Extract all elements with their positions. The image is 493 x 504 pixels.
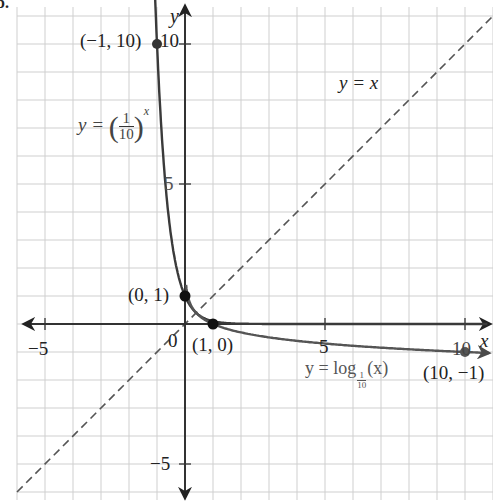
identity-equation: y = x <box>339 72 378 94</box>
grid-lines <box>17 7 493 500</box>
y-axis-label: y <box>170 5 179 28</box>
exp-eq-prefix: y = <box>78 114 109 135</box>
tick-label-origin: 0 <box>168 330 178 352</box>
point-label-neg1-10: (−1, 10) <box>80 30 141 52</box>
tick-label-x5: 5 <box>319 336 329 358</box>
tick-label-y10: 10 <box>160 30 179 52</box>
exponential-equation: y = (110)x <box>78 104 149 144</box>
exp-eq-fraction: 110 <box>119 111 134 142</box>
log-eq-arg: (x) <box>367 358 388 378</box>
point-label-0-1: (0, 1) <box>128 284 169 306</box>
point-label-10-neg1: (10, −1) <box>423 362 484 384</box>
log-eq-base: 110 <box>357 371 366 390</box>
tick-label-y-neg5: −5 <box>150 453 170 475</box>
tick-label-y5: 5 <box>164 173 174 195</box>
point-0-1 <box>180 291 191 302</box>
point-1-0 <box>208 319 219 330</box>
logarithm-equation: y = log110(x) <box>305 358 388 390</box>
figure-marker: b. <box>0 0 9 12</box>
tick-label-x-neg5: −5 <box>28 338 48 360</box>
identity-line <box>17 17 492 492</box>
tick-label-x10: 10 <box>452 338 471 360</box>
x-axis-label: x <box>480 330 488 352</box>
log-eq-prefix: y = log <box>305 358 356 378</box>
point-label-1-0: (1, 0) <box>192 334 233 356</box>
chart-plot <box>0 0 493 504</box>
